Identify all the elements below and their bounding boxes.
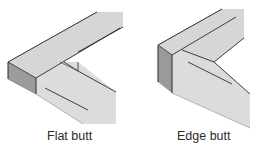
edge-butt-figure: Edge butt — [133, 0, 266, 150]
flat-butt-caption: Flat butt — [47, 129, 92, 143]
flat-butt-figure: Flat butt — [0, 0, 133, 150]
flat-butt-joint-illustration — [0, 0, 133, 150]
edge-butt-caption: Edge butt — [177, 129, 231, 143]
edge-butt-joint-illustration — [133, 0, 266, 150]
